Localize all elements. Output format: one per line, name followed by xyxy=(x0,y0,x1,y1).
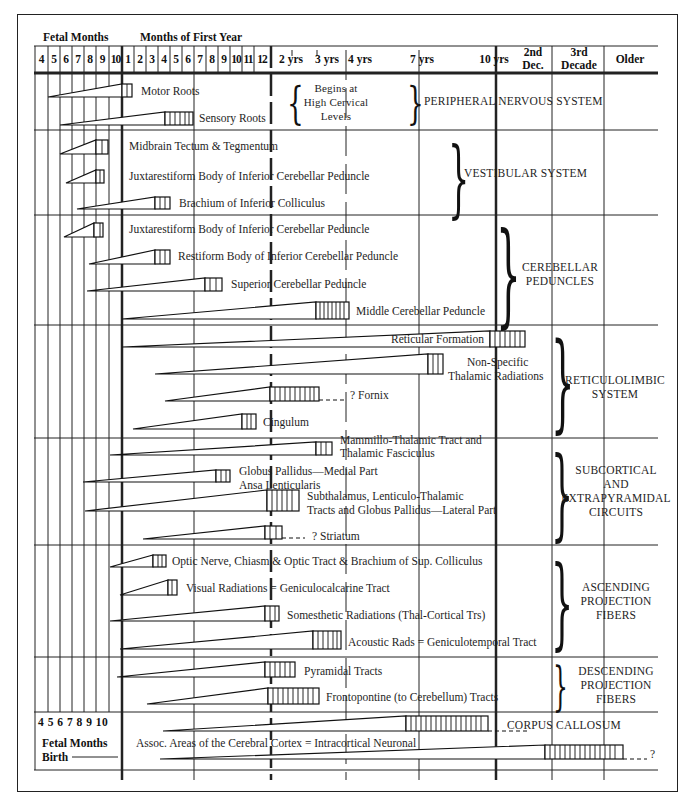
tract-mammillo-thalamic: Mammillo-Thalamic Tract and xyxy=(340,434,482,447)
tract-juxtarestiform-vest: Juxtarestiform Body of Inferior Cerebell… xyxy=(129,170,369,183)
section-title-reticulolimbic: RETICULOLIMBIC SYSTEM xyxy=(562,373,668,401)
month-1: 1 xyxy=(122,53,134,66)
month-9: 9 xyxy=(218,53,230,66)
fetal-month-7: 7 xyxy=(72,53,84,66)
tract-visual-radiations: Visual Radiations = Geniculocalcarine Tr… xyxy=(186,582,390,595)
section-title-cerebellar: CEREBELLAR PEDUNCLES xyxy=(515,260,605,288)
fetal-month-6: 6 xyxy=(60,53,72,66)
tract-thalamic-fasciculus: Thalamic Fasciculus xyxy=(340,447,435,460)
myelination-wedges xyxy=(48,84,623,759)
month-10: 10 xyxy=(230,53,242,66)
footer-fetal-numbers: 4 5 6 7 8 9 10 xyxy=(38,716,108,728)
footer-birth-label: Birth xyxy=(42,751,68,763)
tract-reticular-formation: Reticular Formation xyxy=(391,333,484,346)
decade-older: Older xyxy=(604,53,656,66)
pns-note-line: High Cervical xyxy=(298,95,374,109)
title-line: FIBERS xyxy=(567,692,665,706)
title-line: AND xyxy=(560,477,672,491)
tract-sensory-roots: Sensory Roots xyxy=(199,112,266,125)
fetal-month-4: 4 xyxy=(35,53,48,66)
fetal-month-9: 9 xyxy=(96,53,109,66)
decade-2nd: 2nd Dec. xyxy=(514,46,552,72)
section-title-subcortical: SUBCORTICAL AND EXTRAPYRAMIDAL CIRCUITS xyxy=(560,463,672,519)
tract-thalamic-radiations: Thalamic Radiations xyxy=(448,370,544,383)
tract-assoc-areas: Assoc. Areas of the Cerebral Cortex = In… xyxy=(136,737,416,750)
fetal-month-10: 10 xyxy=(109,53,122,66)
title-line: FIBERS xyxy=(563,608,669,622)
month-8: 8 xyxy=(206,53,218,66)
tract-non-specific: Non-Specific xyxy=(467,356,528,369)
pns-note-line: Begins at xyxy=(298,81,374,95)
pns-note: Begins at High Cervical Levels xyxy=(298,81,374,123)
tract-acoustic-rads: Acoustic Rads = Geniculotemporal Tract xyxy=(348,636,537,649)
tract-globus-pallidus-lateral: Tracts and Globus Pallidus—Lateral Part xyxy=(307,504,496,517)
title-line: CIRCUITS xyxy=(560,505,672,519)
tract-motor-roots: Motor Roots xyxy=(141,85,199,98)
title-line: RETICULOLIMBIC xyxy=(562,373,668,387)
tract-globus-pallidus-medial: Globus Pallidus—Medial Part xyxy=(239,465,378,478)
hatching xyxy=(100,84,615,759)
month-3: 3 xyxy=(146,53,158,66)
title-line: PROJECTION xyxy=(567,678,665,692)
first-year-title: Months of First Year xyxy=(140,31,242,43)
title-line: ASCENDING xyxy=(563,580,669,594)
tract-fornix: ? Fornix xyxy=(350,389,389,402)
title-line: EXTRAPYRAMIDAL xyxy=(560,491,672,505)
tract-superior-cerebellar: Superior Cerebellar Peduncle xyxy=(231,278,366,291)
tract-juxtarestiform-cereb: Juxtarestiform Body of Inferior Cerebell… xyxy=(129,223,369,236)
title-line: DESCENDING xyxy=(567,664,665,678)
month-6: 6 xyxy=(182,53,194,66)
tract-frontopontine: Frontopontine (to Cerebellum) Tracts xyxy=(326,691,498,704)
fetal-month-5: 5 xyxy=(48,53,60,66)
tract-middle-cerebellar: Middle Cerebellar Peduncle xyxy=(356,305,485,318)
brace-icon: } xyxy=(553,660,568,712)
year-10: 10 yrs xyxy=(472,53,516,66)
section-title-vestibular: VESTIBULAR SYSTEM xyxy=(464,166,587,180)
title-line: PEDUNCLES xyxy=(515,274,605,288)
tract-midbrain-tectum: Midbrain Tectum & Tegmentum xyxy=(129,140,278,153)
unknown-marker: ? xyxy=(650,748,655,761)
section-title-ascending: ASCENDING PROJECTION FIBERS xyxy=(563,580,669,622)
section-title-pns: PERIPHERAL NERVOUS SYSTEM xyxy=(424,94,603,108)
footer-fetal-label: Fetal Months xyxy=(42,737,107,749)
title-line: SUBCORTICAL xyxy=(560,463,672,477)
year-2: 2 yrs xyxy=(273,53,309,66)
month-4: 4 xyxy=(158,53,170,66)
month-12: 12 xyxy=(254,53,270,66)
tract-optic-nerve: Optic Nerve, Chiasm & Optic Tract & Brac… xyxy=(172,555,482,568)
tract-pyramidal: Pyramidal Tracts xyxy=(304,665,382,678)
year-7: 7 yrs xyxy=(402,53,442,66)
year-4: 4 yrs xyxy=(340,53,380,66)
month-5: 5 xyxy=(170,53,182,66)
section-title-descending: DESCENDING PROJECTION FIBERS xyxy=(567,664,665,706)
tract-subthalamus: Subthalamus, Lenticulo-Thalamic xyxy=(307,490,464,503)
fetal-month-8: 8 xyxy=(84,53,96,66)
tract-restiform-body: Restiform Body of Inferior Cerebellar Pe… xyxy=(178,250,398,263)
title-line: CEREBELLAR xyxy=(515,260,605,274)
brace-icon: } xyxy=(407,82,424,126)
decade-3rd: 3rd Decade xyxy=(554,46,604,72)
title-line: SYSTEM xyxy=(562,387,668,401)
tract-brachium-inf-colliculus: Brachium of Inferior Colliculus xyxy=(179,197,325,210)
fetal-months-title: Fetal Months xyxy=(43,31,108,43)
tract-striatum: ? Striatum xyxy=(312,530,360,543)
section-title-corpus-callosum: CORPUS CALLOSUM xyxy=(507,718,621,732)
month-2: 2 xyxy=(134,53,146,66)
pns-note-line: Levels xyxy=(298,109,374,123)
title-line: PROJECTION xyxy=(563,594,669,608)
tract-somesthetic-radiations: Somesthetic Radiations (Thal-Cortical Tr… xyxy=(287,609,485,622)
month-7: 7 xyxy=(194,53,206,66)
tract-cingulum: Cingulum xyxy=(263,416,309,429)
month-11: 11 xyxy=(242,53,254,66)
